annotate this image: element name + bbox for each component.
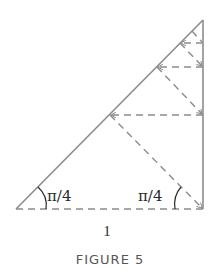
figure-diagram: π/4 π/4 1 FIGURE 5	[0, 0, 215, 270]
right-angle-arc-icon	[175, 187, 181, 209]
reflection-segment-7	[192, 31, 202, 42]
base-length-label: 1	[103, 223, 111, 239]
reflection-segment-5	[180, 43, 202, 66]
angle-right-label: π/4	[138, 187, 162, 205]
reflection-path	[110, 31, 203, 208]
angle-left-label: π/4	[47, 187, 71, 205]
figure-caption: FIGURE 5	[76, 252, 145, 267]
left-angle-arc-icon	[38, 187, 46, 209]
reflection-segment-3	[157, 67, 202, 114]
